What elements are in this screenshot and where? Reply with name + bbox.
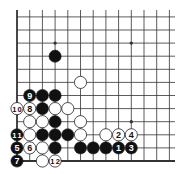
black-stone-3: 3 [125, 142, 137, 154]
star-point [130, 41, 133, 44]
white-stone [24, 116, 36, 128]
move-number-label: 3 [129, 143, 134, 153]
go-board: 123456789101112 [0, 0, 182, 174]
white-stone-12: 12 [49, 155, 61, 167]
stone-disc [49, 50, 61, 62]
white-stone-6: 6 [24, 142, 36, 154]
white-stone-10: 10 [11, 103, 23, 115]
black-stone [62, 129, 74, 141]
stone-disc [49, 89, 61, 101]
move-number-label: 2 [116, 130, 121, 140]
white-stone [36, 142, 48, 154]
stone-disc [74, 142, 86, 154]
move-number-label: 1 [116, 143, 121, 153]
stone-disc [36, 89, 48, 101]
move-number-label: 5 [14, 143, 19, 153]
move-number-label: 6 [27, 143, 32, 153]
black-stone-5: 5 [11, 142, 23, 154]
black-stone-7: 7 [11, 155, 23, 167]
stone-disc [87, 142, 99, 154]
move-number-label: 7 [14, 156, 19, 166]
black-stone [36, 129, 48, 141]
move-number-label: 9 [27, 91, 32, 101]
black-stone-1: 1 [113, 142, 125, 154]
black-stone-9: 9 [24, 89, 36, 101]
white-stone-4: 4 [125, 129, 137, 141]
white-stone [24, 129, 36, 141]
black-stone [49, 142, 61, 154]
move-number-label: 11 [12, 131, 22, 140]
move-number-label: 4 [129, 130, 134, 140]
stone-disc [36, 155, 48, 167]
stone-disc [49, 116, 61, 128]
stone-disc [36, 116, 48, 128]
black-stone [49, 89, 61, 101]
white-stone-8: 8 [24, 103, 36, 115]
stone-disc [24, 116, 36, 128]
stone-disc [24, 129, 36, 141]
black-stone-11: 11 [11, 129, 23, 141]
white-stone [74, 76, 86, 88]
white-stone [74, 116, 86, 128]
stone-disc [74, 129, 86, 141]
star-point [53, 41, 56, 44]
white-stone [100, 129, 112, 141]
stone-disc [36, 129, 48, 141]
star-point [130, 120, 133, 123]
black-stone [49, 50, 61, 62]
black-stone [74, 142, 86, 154]
stone-disc [36, 103, 48, 115]
stone-disc [74, 76, 86, 88]
stone-disc [49, 129, 61, 141]
stone-disc [49, 103, 61, 115]
black-stone [36, 89, 48, 101]
move-number-label: 12 [50, 157, 60, 166]
white-stone [36, 155, 48, 167]
black-stone [36, 103, 48, 115]
move-number-label: 8 [27, 104, 32, 114]
stone-disc [36, 142, 48, 154]
black-stone [49, 129, 61, 141]
white-stone-2: 2 [113, 129, 125, 141]
stone-disc [62, 103, 74, 115]
stone-disc [74, 116, 86, 128]
stone-disc [62, 129, 74, 141]
white-stone [62, 103, 74, 115]
stone-disc [49, 142, 61, 154]
white-stone [49, 103, 61, 115]
white-stone [36, 116, 48, 128]
stone-disc [100, 129, 112, 141]
black-stone [87, 142, 99, 154]
white-stone [74, 129, 86, 141]
stone-disc [100, 142, 112, 154]
move-number-label: 10 [12, 105, 22, 114]
black-stone [49, 116, 61, 128]
black-stone [100, 142, 112, 154]
